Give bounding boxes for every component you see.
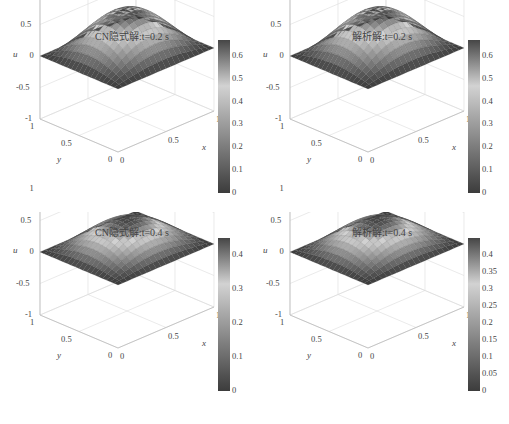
z-tick-label: 0 bbox=[280, 50, 284, 60]
colorbar-tick-label: 0.1 bbox=[232, 351, 243, 361]
x-tick-label: 0.5 bbox=[418, 331, 429, 341]
colorbar-tick-label: 0.4 bbox=[232, 96, 243, 106]
surface-plot-panel: CN隐式解:t=0.2 s -1-0.500.5100.5100.51uyx00… bbox=[0, 0, 254, 212]
y-tick-label: 1 bbox=[30, 121, 34, 131]
colorbar bbox=[468, 238, 480, 391]
y-tick-label: 0 bbox=[358, 350, 362, 360]
y-tick-label: 0.5 bbox=[61, 138, 72, 148]
z-tick-label: -0.5 bbox=[16, 278, 29, 288]
colorbar-tick-label: 0.3 bbox=[482, 118, 493, 128]
y-axis-label: y bbox=[307, 350, 311, 360]
colorbar-tick-label: 0.5 bbox=[482, 73, 493, 83]
plot-title: 解析解:t=0.4 s bbox=[352, 224, 412, 239]
y-axis-label: y bbox=[307, 154, 311, 164]
colorbar-tick-label: 0.2 bbox=[482, 141, 493, 151]
z-tick-label: 0.5 bbox=[271, 215, 282, 225]
x-axis-label: x bbox=[452, 142, 456, 152]
y-tick-label: 1 bbox=[30, 317, 34, 327]
x-tick-label: 0 bbox=[120, 155, 124, 165]
colorbar-tick-label: 0.2 bbox=[232, 317, 243, 327]
y-tick-label: 0 bbox=[108, 350, 112, 360]
x-tick-label: 0.5 bbox=[168, 331, 179, 341]
colorbar-tick-label: 0.3 bbox=[482, 283, 493, 293]
y-tick-label: 1 bbox=[280, 317, 284, 327]
y-tick-label: 0 bbox=[358, 154, 362, 164]
colorbar-tick-label: 0 bbox=[232, 385, 236, 395]
z-tick-label: 0 bbox=[280, 246, 284, 256]
y-tick-label: 0.5 bbox=[311, 138, 322, 148]
colorbar-tick-label: 0.35 bbox=[482, 266, 497, 276]
colorbar-tick-label: 0.4 bbox=[482, 249, 493, 259]
y-tick-label: 0.5 bbox=[311, 334, 322, 344]
x-tick-label: 0.5 bbox=[168, 135, 179, 145]
x-tick-label: 0.5 bbox=[418, 135, 429, 145]
colorbar-tick-label: 0.2 bbox=[232, 141, 243, 151]
colorbar-tick-label: 0.5 bbox=[232, 73, 243, 83]
colorbar-tick-label: 0.4 bbox=[232, 249, 243, 259]
colorbar-tick-label: 0.05 bbox=[482, 368, 497, 378]
z-tick-label: -0.5 bbox=[16, 82, 29, 92]
z-tick-label: 0.5 bbox=[21, 215, 32, 225]
colorbar-tick-label: 0.6 bbox=[482, 50, 493, 60]
surface-plot-panel: 解析解:t=0.2 s -1-0.500.5100.5100.51uyx00.1… bbox=[250, 0, 504, 212]
plot-title: CN隐式解:t=0.2 s bbox=[95, 28, 169, 43]
surface-plot-panel: 解析解:t=0.4 s -1-0.500.5100.5100.51uyx00.0… bbox=[250, 212, 504, 424]
z-tick-label: 0.5 bbox=[21, 19, 32, 29]
z-axis-label: u bbox=[13, 49, 18, 59]
y-tick-label: 0.5 bbox=[61, 334, 72, 344]
colorbar-tick-label: 0.1 bbox=[232, 164, 243, 174]
z-tick-label: 0 bbox=[30, 50, 34, 60]
colorbar-tick-label: 0.6 bbox=[232, 50, 243, 60]
colorbar-tick-label: 0.25 bbox=[482, 300, 497, 310]
z-tick-label: -0.5 bbox=[266, 82, 279, 92]
z-axis-label: u bbox=[263, 245, 268, 255]
colorbar-tick-label: 0.4 bbox=[482, 96, 493, 106]
x-tick-label: 0 bbox=[120, 351, 124, 361]
z-tick-label: 1 bbox=[30, 183, 34, 193]
colorbar-tick-label: 0.1 bbox=[482, 164, 493, 174]
surface-plot-panel: CN隐式解:t=0.4 s -1-0.500.5100.5100.51uyx00… bbox=[0, 212, 254, 424]
x-axis-label: x bbox=[202, 142, 206, 152]
colorbar-tick-label: 0 bbox=[232, 187, 236, 197]
colorbar bbox=[218, 238, 230, 391]
x-axis-label: x bbox=[452, 338, 456, 348]
plot-title: CN隐式解:t=0.4 s bbox=[95, 224, 169, 239]
colorbar-tick-label: 0.3 bbox=[232, 283, 243, 293]
x-tick-label: 0 bbox=[370, 155, 374, 165]
y-axis-label: y bbox=[57, 350, 61, 360]
z-tick-label: -0.5 bbox=[266, 278, 279, 288]
y-tick-label: 0 bbox=[108, 154, 112, 164]
y-tick-label: 1 bbox=[280, 121, 284, 131]
x-axis-label: x bbox=[202, 338, 206, 348]
colorbar-tick-label: 0.1 bbox=[482, 351, 493, 361]
colorbar-tick-label: 0 bbox=[482, 385, 486, 395]
colorbar-tick-label: 0.2 bbox=[482, 317, 493, 327]
z-tick-label: 0 bbox=[30, 246, 34, 256]
z-axis-label: u bbox=[263, 49, 268, 59]
colorbar-tick-label: 0 bbox=[482, 187, 486, 197]
z-axis-label: u bbox=[13, 245, 18, 255]
plot-title: 解析解:t=0.2 s bbox=[352, 28, 412, 43]
z-tick-label: 1 bbox=[280, 183, 284, 193]
colorbar-tick-label: 0.15 bbox=[482, 334, 497, 344]
colorbar-tick-label: 0.3 bbox=[232, 118, 243, 128]
colorbar bbox=[468, 40, 480, 193]
x-tick-label: 0 bbox=[370, 351, 374, 361]
y-axis-label: y bbox=[57, 154, 61, 164]
colorbar bbox=[218, 40, 230, 193]
z-tick-label: 0.5 bbox=[271, 19, 282, 29]
